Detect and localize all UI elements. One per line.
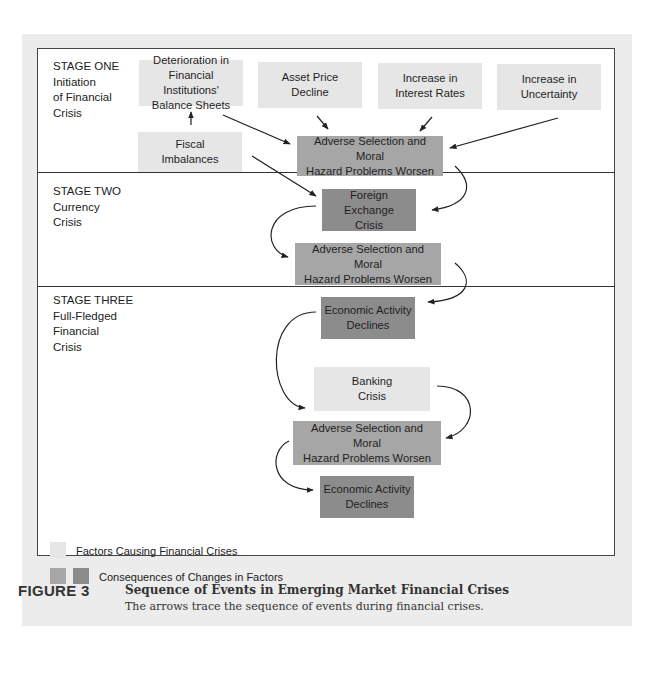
stage-desc: Crisis [53, 106, 119, 122]
box-interest-rates: Increase inInterest Rates [378, 63, 482, 109]
stage-desc: Initiation [53, 75, 119, 91]
stage-one-label: STAGE ONE Initiation of Financial Crisis [53, 59, 119, 121]
stage-desc: Currency [53, 200, 121, 216]
legend-factors-label: Factors Causing Financial Crises [76, 545, 237, 557]
box-adverse-selection-2: Adverse Selection and MoralHazard Proble… [295, 243, 441, 285]
stage-desc: Financial [53, 324, 133, 340]
legend-swatch-factor [50, 542, 66, 558]
stage-title: STAGE THREE [53, 293, 133, 309]
box-banking-crisis: BankingCrisis [314, 367, 430, 411]
box-fiscal: FiscalImbalances [138, 132, 242, 172]
stage-desc: Full-Fledged [53, 309, 133, 325]
figure-title: Sequence of Events in Emerging Market Fi… [125, 583, 509, 597]
legend-consequences-label: Consequences of Changes in Factors [99, 571, 283, 583]
box-adverse-selection-3: Adverse Selection and MoralHazard Proble… [293, 421, 441, 465]
box-deterioration: Deterioration inFinancial Institutions'B… [139, 60, 243, 106]
stage-desc: Crisis [53, 340, 133, 356]
figure-label: FIGURE 3 [18, 582, 90, 599]
stage-three-label: STAGE THREE Full-Fledged Financial Crisi… [53, 293, 133, 355]
stage-desc: Crisis [53, 215, 121, 231]
box-asset-price: Asset PriceDecline [258, 62, 362, 108]
box-economic-activity-1: Economic ActivityDeclines [321, 297, 415, 339]
stage-title: STAGE TWO [53, 184, 121, 200]
stage-desc: of Financial [53, 90, 119, 106]
box-uncertainty: Increase inUncertainty [497, 64, 601, 110]
stage-two-label: STAGE TWO Currency Crisis [53, 184, 121, 231]
box-adverse-selection-1: Adverse Selection and MoralHazard Proble… [297, 136, 443, 176]
box-economic-activity-2: Economic ActivityDeclines [320, 476, 414, 518]
figure-subtitle: The arrows trace the sequence of events … [125, 600, 484, 613]
box-foreign-exchange-crisis: Foreign ExchangeCrisis [322, 189, 416, 231]
stage-title: STAGE ONE [53, 59, 119, 75]
